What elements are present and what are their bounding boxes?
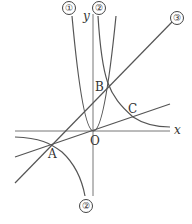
x-axis-label: x (174, 124, 181, 136)
hyperbola-2-third-quadrant (15, 137, 85, 196)
origin-label: O (90, 135, 100, 147)
graph-label-2-top: ② (92, 1, 106, 15)
y-axis-label: y (83, 10, 90, 22)
point-b-label: B (95, 81, 104, 93)
point-c-label: C (128, 103, 137, 115)
graph-label-3: ③ (170, 11, 184, 25)
graph-label-1: ① (62, 1, 76, 15)
diagram-canvas (0, 0, 192, 224)
parabola-1 (72, 16, 116, 131)
graph-label-2-bottom: ② (79, 199, 93, 213)
point-a-label: A (48, 148, 57, 160)
